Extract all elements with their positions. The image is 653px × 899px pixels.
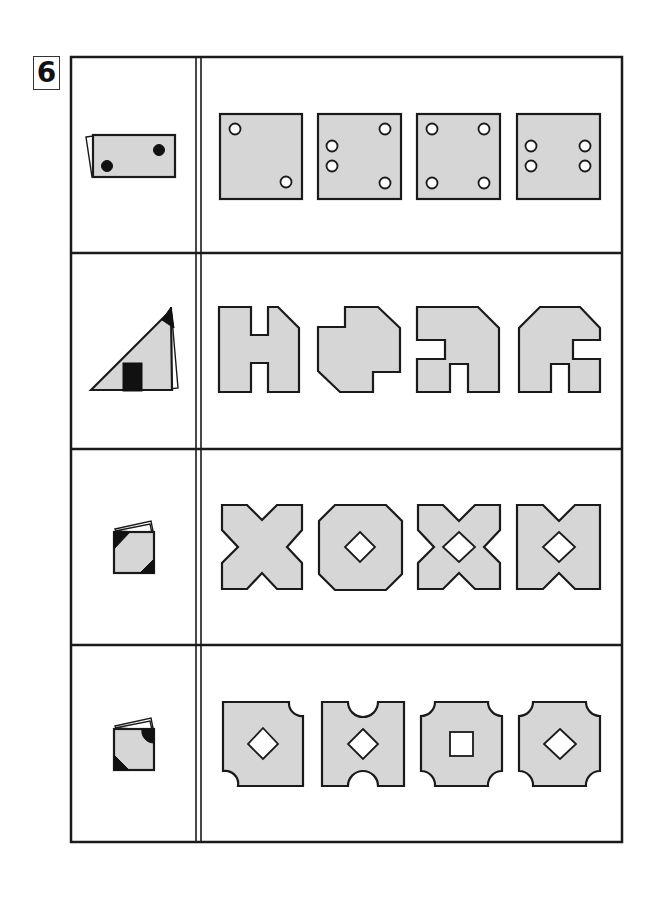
row-4-choice-4[interactable] — [519, 702, 600, 786]
row-3-choice-3[interactable] — [418, 505, 500, 589]
row-4-choice-2[interactable] — [322, 702, 404, 786]
row-2-choice-3[interactable] — [417, 307, 499, 392]
punched-hole — [154, 145, 165, 156]
row-4-choice-1[interactable] — [223, 702, 303, 786]
row-1-choice-1[interactable] — [220, 114, 302, 199]
row-1-choice-3[interactable] — [417, 114, 500, 199]
row-3-choice-4[interactable] — [517, 505, 600, 589]
row-2-choice-4[interactable] — [519, 307, 600, 392]
row-4-choice-3[interactable] — [421, 702, 502, 786]
row-1-question — [86, 135, 175, 177]
row-2-choice-1[interactable] — [219, 307, 299, 392]
row-3-choice-2[interactable] — [319, 505, 402, 590]
row-1-choice-4[interactable] — [517, 114, 600, 199]
punched-hole — [102, 161, 113, 172]
rectangle-cut — [123, 363, 142, 391]
row-4-question — [114, 718, 154, 770]
row-1-choice-2[interactable] — [318, 114, 401, 199]
row-3-question — [114, 521, 154, 573]
row-2-choice-2[interactable] — [318, 307, 400, 392]
row-2-question — [91, 307, 178, 391]
puzzle-grid — [0, 0, 653, 899]
worksheet: 6 — [0, 0, 653, 899]
row-3-choice-1[interactable] — [222, 505, 302, 589]
